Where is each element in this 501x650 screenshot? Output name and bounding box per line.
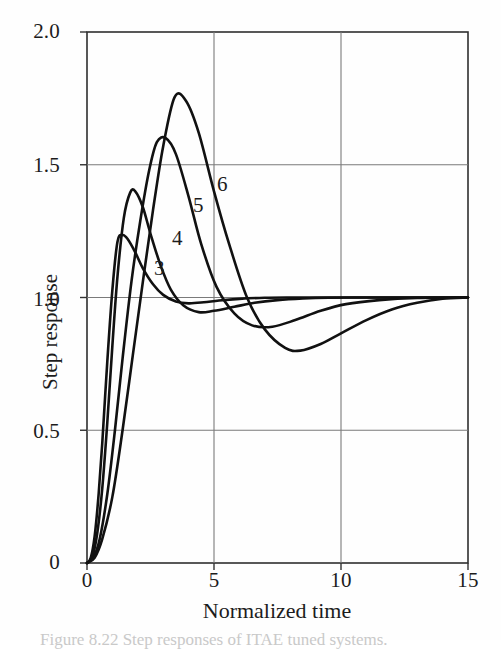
curve-label-3: 3 (154, 256, 165, 281)
y-tick-label-2: 2.0 (33, 21, 60, 42)
curve-label-4: 4 (172, 226, 183, 251)
curve-6 (87, 93, 468, 563)
data-curves (87, 93, 468, 563)
curve-label-5: 5 (193, 193, 204, 218)
y-tick-label-0_5: 0.5 (33, 421, 60, 442)
curve-4 (87, 189, 468, 563)
x-axis-label: Normalized time (203, 598, 351, 624)
y-axis-label: Step response (38, 274, 63, 390)
y-tick-label-1_5: 1.5 (33, 155, 60, 176)
curve-5 (87, 137, 468, 563)
figure-caption: Figure 8.22 Step responses of ITAE tuned… (40, 630, 470, 650)
x-tick-label-0: 0 (82, 570, 93, 591)
curve-3 (87, 235, 468, 563)
y-tick-label-0: 0 (49, 552, 60, 573)
x-tick-label-10: 10 (330, 570, 351, 591)
x-tick-label-15: 15 (457, 570, 478, 591)
x-tick-label-5: 5 (209, 570, 220, 591)
curve-label-6: 6 (217, 172, 228, 197)
